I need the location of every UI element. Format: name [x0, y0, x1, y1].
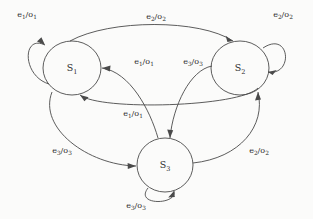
edge-label-s2-self: e2/o2: [273, 10, 293, 20]
state-diagram-canvas: e2/o2 e1/o1 e1/o1 e3/o3 e3/o3: [0, 0, 313, 219]
transition-s3-to-s1[interactable]: e1/o1: [102, 57, 158, 138]
loop-path-s1: [28, 43, 49, 84]
state-node-s1[interactable]: S1: [43, 41, 101, 95]
edge-label-s1-s3: e3/o3: [52, 146, 72, 156]
transition-s1-to-s2[interactable]: e2/o2: [70, 12, 233, 42]
transition-s2-self-loop[interactable]: e2/o2: [263, 10, 293, 75]
state-label-s1: S1: [67, 62, 78, 76]
edge-label-s3-s1: e1/o1: [134, 57, 154, 67]
transition-s1-to-s3[interactable]: e3/o3: [50, 92, 136, 169]
transition-s2-to-s1[interactable]: e1/o1: [80, 88, 258, 119]
transition-s1-self-loop[interactable]: e1/o1: [17, 10, 49, 84]
edge-label-s2-s3: e3/o3: [183, 57, 203, 67]
loop-path-s3: [145, 188, 174, 202]
state-label-s2: S2: [235, 62, 246, 76]
edge-label-s1-self: e1/o1: [17, 10, 37, 20]
arrow-head-s1-s3: [128, 163, 136, 169]
edge-path-s2-s1: [80, 88, 258, 105]
edge-label-s1-s2: e2/o2: [146, 12, 166, 22]
arrow-head-s3-s1: [102, 65, 111, 71]
edge-label-s3-s2: e2/o2: [249, 146, 269, 156]
edge-label-s2-s1: e1/o1: [123, 109, 143, 119]
arrow-head-s1-s2: [226, 36, 233, 42]
edge-path-s1-s2: [70, 25, 233, 42]
state-node-s3[interactable]: S3: [137, 138, 193, 192]
state-node-s2[interactable]: S2: [211, 41, 269, 95]
state-label-s3: S3: [160, 159, 171, 173]
arrow-head-s2-s3: [167, 129, 173, 138]
transition-s2-to-s3[interactable]: e3/o3: [167, 57, 212, 138]
arrow-head-s2-s1: [80, 95, 89, 101]
edge-label-s3-self: e3/o3: [126, 201, 146, 211]
loop-path-s2: [263, 44, 286, 72]
arrow-head-s3-s2: [255, 92, 261, 100]
state-machine-svg: e2/o2 e1/o1 e1/o1 e3/o3 e3/o3: [0, 0, 313, 219]
